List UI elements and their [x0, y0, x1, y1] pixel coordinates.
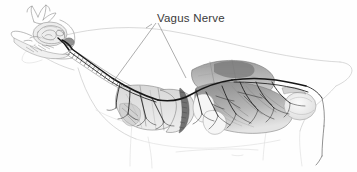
leader-line-tick: [146, 24, 152, 28]
leader-line-left: [113, 23, 156, 82]
vagus-nerve-figure: Vagus Nerve: [0, 0, 357, 172]
lungs: [116, 85, 195, 133]
vagus-nerve-label: Vagus Nerve: [157, 12, 225, 24]
anatomical-illustration: Vagus Nerve: [0, 0, 357, 172]
skull: [11, 5, 75, 59]
stomach: [191, 60, 316, 134]
